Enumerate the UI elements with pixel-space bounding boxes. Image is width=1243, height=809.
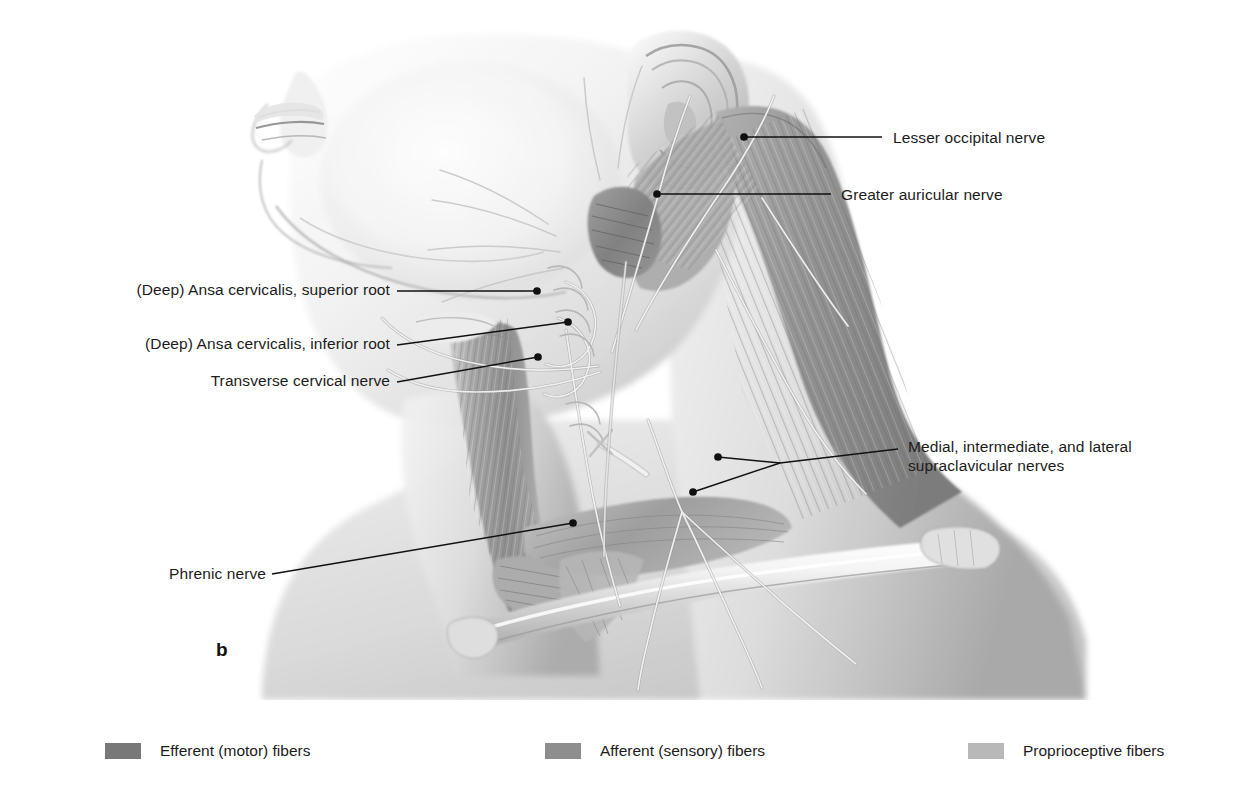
label-ansa-cervicalis-superior-root: (Deep) Ansa cervicalis, superior root: [60, 280, 390, 299]
legend-swatch-proprioceptive: [968, 743, 1004, 759]
legend-item-proprioceptive: Proprioceptive fibers: [968, 738, 1164, 764]
label-phrenic-nerve: Phrenic nerve: [60, 564, 266, 583]
legend-label-afferent: Afferent (sensory) fibers: [600, 742, 765, 760]
legend-label-proprioceptive: Proprioceptive fibers: [1023, 742, 1164, 760]
legend-label-efferent: Efferent (motor) fibers: [160, 742, 310, 760]
label-greater-auricular-nerve: Greater auricular nerve: [841, 185, 1003, 204]
legend-swatch-afferent: [545, 743, 581, 759]
figure-letter: b: [216, 639, 228, 661]
legend-item-afferent: Afferent (sensory) fibers: [545, 738, 765, 764]
legend-item-efferent: Efferent (motor) fibers: [105, 738, 310, 764]
label-supraclavicular-nerves: Medial, intermediate, and lateral suprac…: [908, 437, 1132, 475]
label-ansa-cervicalis-inferior-root: (Deep) Ansa cervicalis, inferior root: [60, 334, 390, 353]
fiber-type-legend: Efferent (motor) fibers Afferent (sensor…: [0, 738, 1243, 764]
label-transverse-cervical-nerve: Transverse cervical nerve: [60, 371, 390, 390]
legend-swatch-efferent: [105, 743, 141, 759]
label-lesser-occipital-nerve: Lesser occipital nerve: [893, 128, 1045, 147]
anatomical-figure: (Deep) Ansa cervicalis, superior root (D…: [0, 0, 1243, 809]
